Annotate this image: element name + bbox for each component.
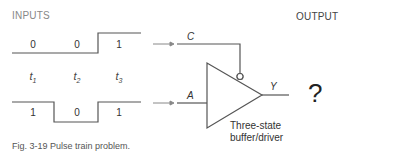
waveform-c-bit: 1 — [112, 39, 126, 50]
input-signal-label: A — [187, 90, 194, 101]
figure-caption: Fig. 3-19 Pulse train problem. — [12, 141, 130, 151]
time-label-t1: t1 — [25, 70, 41, 84]
waveform-c-bit: 0 — [26, 39, 40, 50]
waveform-a-bit: 0 — [70, 107, 84, 118]
circuit-diagram — [0, 0, 418, 156]
waveform-a-bit: 1 — [112, 107, 126, 118]
waveform-c-bit: 0 — [70, 39, 84, 50]
gate-label: Three-state buffer/driver — [230, 120, 283, 144]
output-signal-label: Y — [270, 81, 277, 92]
waveform-a-bit: 1 — [26, 107, 40, 118]
time-label-t3: t3 — [111, 70, 127, 84]
arrow-icon — [153, 42, 174, 105]
buffer-triangle-icon — [207, 63, 262, 128]
control-signal-label: C — [187, 31, 194, 42]
unknown-output: ? — [308, 78, 322, 109]
time-label-t2: t2 — [69, 70, 85, 84]
